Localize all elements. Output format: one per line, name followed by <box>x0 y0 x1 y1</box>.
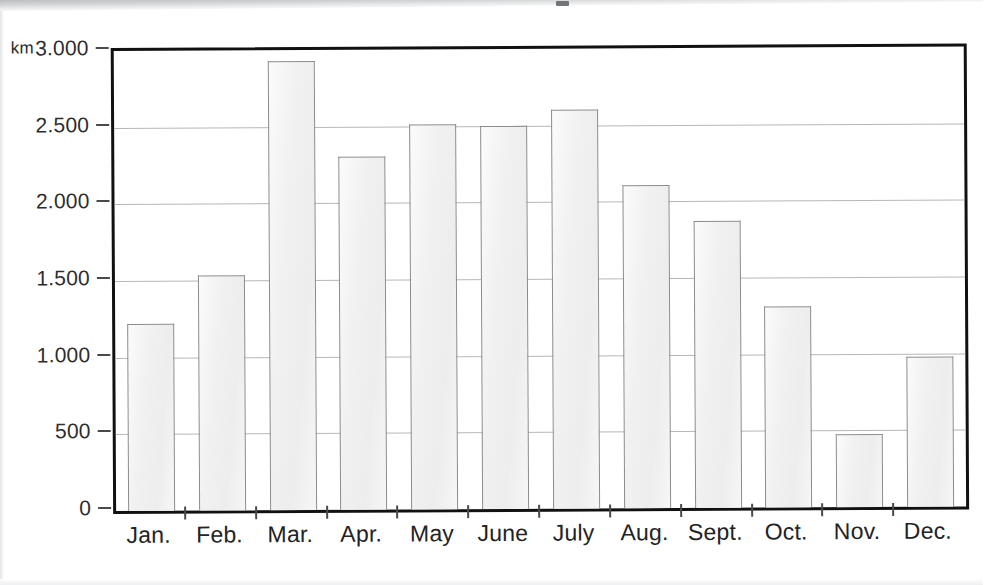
x-axis-tick-mark <box>326 506 328 519</box>
bar <box>693 220 742 508</box>
x-axis-tick-mark <box>184 507 186 520</box>
y-axis-tick-label: 3.000 <box>5 36 89 60</box>
y-axis-tick-label: 1.000 <box>6 343 90 367</box>
y-axis-tick-label: 0 <box>7 496 91 520</box>
x-axis-tick-label: Feb. <box>196 521 243 548</box>
y-axis-tick-mark <box>97 277 110 279</box>
bars-group <box>114 47 966 511</box>
x-axis-tick-label: June <box>477 520 528 547</box>
y-axis-tick-label: 2.000 <box>5 189 89 213</box>
x-axis-tick-label: May <box>410 520 454 547</box>
x-axis-tick-label: Oct. <box>765 518 808 545</box>
y-axis-tick-label: 500 <box>7 419 91 443</box>
x-axis-tick-mark <box>609 504 611 517</box>
x-axis-tick-mark <box>396 505 398 518</box>
bar <box>764 306 812 507</box>
x-axis-tick-mark <box>680 504 682 517</box>
x-axis-tick-label: Apr. <box>340 521 382 548</box>
x-axis-tick-mark <box>892 503 894 516</box>
x-axis-tick-mark <box>255 506 257 519</box>
y-axis-tick-label: 2.500 <box>5 113 89 137</box>
x-axis-tick-label: July <box>553 519 595 546</box>
bar <box>127 324 175 511</box>
bar <box>836 434 883 507</box>
x-axis-tick-mark <box>821 503 823 516</box>
bar <box>267 61 316 511</box>
x-axis-tick-label: Sept. <box>688 519 743 546</box>
bar <box>622 185 671 508</box>
y-axis-tick-mark <box>97 354 110 356</box>
bar <box>198 276 246 511</box>
bar <box>339 157 388 510</box>
x-axis-tick-mark <box>538 505 540 518</box>
y-axis-tick-label: 1.500 <box>6 266 90 290</box>
y-axis-tick-mark <box>96 47 109 49</box>
bar <box>480 125 529 509</box>
x-axis-tick-label: Jan. <box>126 522 170 549</box>
y-axis-tick-mark <box>98 430 111 432</box>
plot-area <box>111 44 969 514</box>
x-axis-tick-label: Nov. <box>834 518 881 545</box>
x-axis-tick-label: Mar. <box>268 521 314 548</box>
y-axis-tick-mark <box>97 200 110 202</box>
bar <box>551 110 600 509</box>
bar <box>409 124 458 509</box>
bar <box>906 356 954 507</box>
bar-chart-figure: km 05001.0001.5002.0002.5003.000 Jan.Feb… <box>0 0 985 585</box>
y-axis-tick-mark <box>98 507 111 509</box>
y-axis-tick-mark <box>96 124 109 126</box>
x-axis-tick-label: Aug. <box>620 519 668 546</box>
x-axis-tick-mark <box>467 505 469 518</box>
x-axis-tick-mark <box>751 504 753 517</box>
x-axis-tick-label: Dec. <box>904 518 952 545</box>
